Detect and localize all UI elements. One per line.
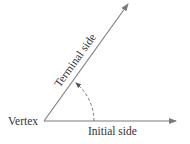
terminal-side-ray: [44, 4, 128, 121]
vertex-label: Vertex: [8, 115, 38, 127]
terminal-side-label: Terminal side: [52, 31, 98, 89]
angle-diagram: Vertex Initial side Terminal side: [0, 0, 190, 144]
rotation-arc-icon: [76, 83, 94, 121]
initial-side-label: Initial side: [88, 125, 137, 137]
